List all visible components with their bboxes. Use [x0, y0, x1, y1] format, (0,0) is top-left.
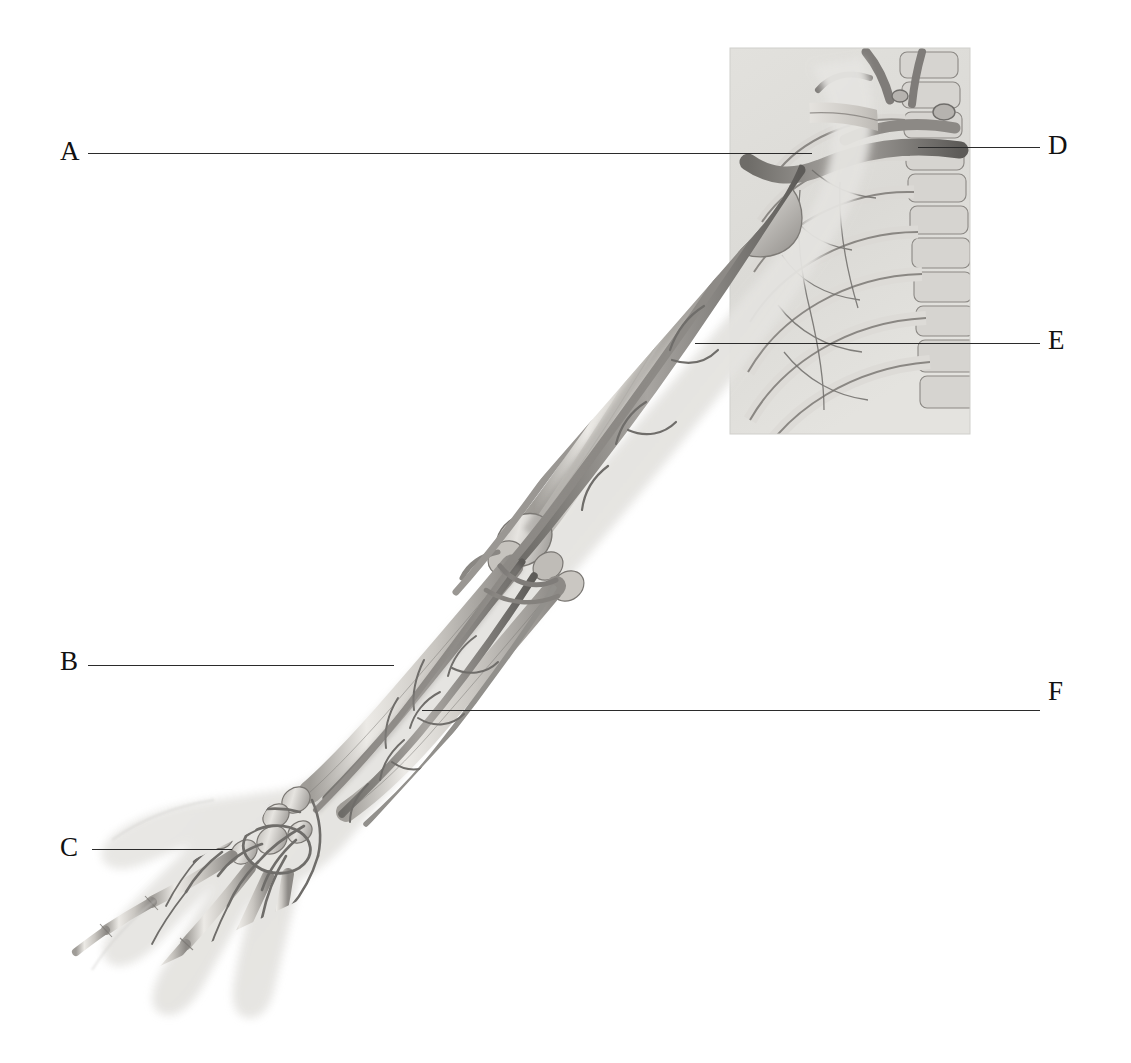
limb-vasculature — [152, 163, 800, 970]
leader-line-b — [88, 665, 394, 666]
leader-line-c — [92, 849, 232, 850]
label-f[interactable]: F — [1048, 678, 1063, 705]
label-d[interactable]: D — [1048, 132, 1068, 159]
anatomy-svg — [0, 0, 1131, 1063]
anatomy-figure — [0, 0, 1131, 1063]
leader-line-d — [918, 147, 1040, 148]
label-c[interactable]: C — [60, 834, 78, 861]
label-b[interactable]: B — [60, 648, 78, 675]
label-e[interactable]: E — [1048, 327, 1065, 354]
label-a[interactable]: A — [60, 138, 80, 165]
leader-line-e — [695, 343, 1040, 344]
leader-line-f — [422, 710, 1040, 711]
illustration-page: A B C D E F — [0, 0, 1131, 1063]
leader-line-a — [88, 153, 812, 154]
